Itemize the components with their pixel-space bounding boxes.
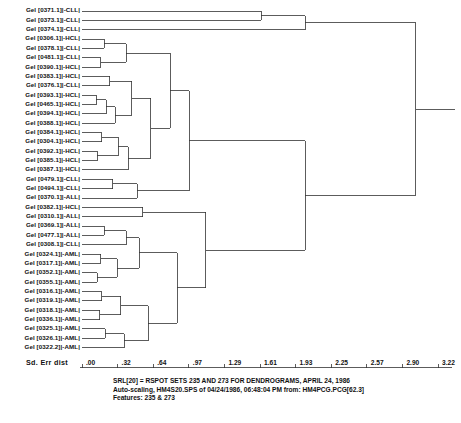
axis-tick-label: .00 — [86, 359, 95, 366]
caption-block: SRL[20] = RSPOT SETS 235 AND 273 FOR DEN… — [113, 377, 364, 403]
axis-title: Sd. Err dist — [26, 358, 68, 367]
caption-line: SRL[20] = RSPOT SETS 235 AND 273 FOR DEN… — [113, 377, 364, 386]
caption-line: Features: 235 & 273 — [113, 394, 364, 403]
caption-line: Auto-scaling, HM4S20.SPS of 04/24/1986, … — [113, 386, 364, 395]
axis-tick-label: 2.25 — [335, 359, 348, 366]
axis-tick-label: .64 — [157, 359, 166, 366]
axis-tick-label: .32 — [122, 359, 131, 366]
axis-tick-label: 1.93 — [300, 359, 313, 366]
axis-tick-label: 2.90 — [406, 359, 419, 366]
axis-tick-label: 1.29 — [228, 359, 241, 366]
axis-tick-label: 1.61 — [264, 359, 277, 366]
axis-tick-label: 2.57 — [371, 359, 384, 366]
dendrogram-figure: Gel [0371.1]|-CLL|Gel [0373.1]|-CLL|Gel … — [0, 0, 461, 423]
axis-tick-label: .97 — [193, 359, 202, 366]
axis-tick-label: 3.22 — [442, 359, 455, 366]
tree-branch-group — [82, 11, 455, 348]
